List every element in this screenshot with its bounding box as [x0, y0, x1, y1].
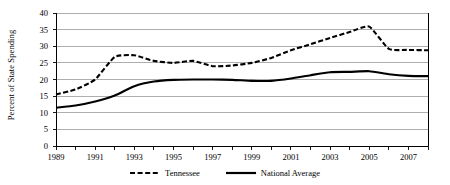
series-line-tennessee	[56, 26, 428, 94]
legend-label-tennessee: Tennessee	[165, 168, 200, 178]
data-series-group	[56, 26, 428, 107]
legend-item-national-average: National Average	[226, 168, 320, 178]
legend-item-tennessee: Tennessee	[130, 168, 200, 178]
legend-label-national-average: National Average	[261, 168, 320, 178]
series-line-national-average	[56, 71, 428, 108]
legend-swatch-dashed	[130, 169, 160, 177]
chart-legend: Tennessee National Average	[0, 168, 450, 178]
plot-area	[0, 0, 450, 185]
chart-figure: Percent of State Spending 05101520253035…	[0, 0, 450, 185]
legend-swatch-solid	[226, 169, 256, 177]
